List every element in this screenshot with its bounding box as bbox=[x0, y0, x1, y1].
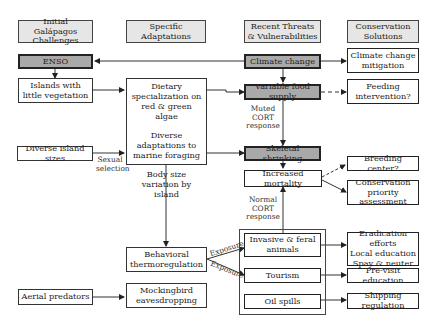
node-increased-mortality: Increased mortality bbox=[244, 170, 322, 187]
node-tourism: Tourism bbox=[244, 268, 321, 283]
node-text: Shipping regulation bbox=[350, 291, 416, 311]
header-text: Conservation Solutions bbox=[350, 22, 416, 42]
label-sexual-selection: Sexual selection bbox=[96, 156, 124, 173]
node-previsit-education: Pre-visit education bbox=[347, 268, 419, 283]
node-text: Feeding intervention? bbox=[350, 82, 416, 102]
node-dietary-specialization: Dietary specialization on red & green al… bbox=[129, 82, 204, 121]
header-text: Recent Threats & Vulnerabilities bbox=[247, 22, 318, 42]
node-islands-little-vegetation: Islands with little vegetation bbox=[18, 78, 93, 103]
header-specific-adaptations: Specific Adaptations bbox=[126, 20, 206, 43]
node-diverse-adaptations: Diverse adaptations to marine foraging bbox=[129, 131, 204, 161]
node-mockingbird-eavesdropping: Mockingbird eavesdropping bbox=[126, 283, 207, 308]
node-climate-change: Climate change bbox=[244, 54, 321, 69]
node-variable-food-supply: Variable food supply bbox=[244, 84, 321, 100]
edge-dietary-to-food bbox=[207, 90, 244, 92]
edge-mortality-to-breeding bbox=[322, 165, 345, 177]
node-skeletal-shrinking: Skeletal shrinking bbox=[244, 146, 321, 161]
node-text: Tourism bbox=[266, 271, 300, 281]
node-oil-spills: Oil spills bbox=[244, 294, 321, 309]
header-conservation-solutions: Conservation Solutions bbox=[347, 20, 419, 43]
node-text: Pre-visit education bbox=[350, 266, 416, 286]
node-body-size-variation: Body size variation by island bbox=[129, 170, 204, 200]
node-text: Variable food supply bbox=[248, 82, 317, 102]
node-breeding-center: Breeding center? bbox=[347, 156, 419, 171]
edge-mortality-to-priority bbox=[322, 180, 346, 192]
node-text: Increased mortality bbox=[247, 169, 319, 189]
node-eradication: Eradication efforts Local education Spay… bbox=[347, 232, 419, 266]
node-diverse-island-sizes: Diverse island sizes bbox=[17, 146, 93, 161]
header-text: Initial Galápagos Challenges bbox=[21, 17, 90, 47]
label-muted-cort: Muted CORT response bbox=[246, 105, 280, 131]
node-text: Skeletal shrinking bbox=[248, 144, 317, 164]
node-behavioral-thermoregulation: Behavioral thermoregulation bbox=[126, 247, 207, 272]
node-text: Climate change mitigation bbox=[350, 51, 416, 71]
node-conservation-priority: Conservation priority assessment bbox=[347, 180, 419, 205]
node-text: ENSO bbox=[43, 57, 68, 67]
node-shipping-regulation: Shipping regulation bbox=[347, 293, 419, 309]
header-recent-threats: Recent Threats & Vulnerabilities bbox=[244, 20, 321, 43]
node-text: Behavioral thermoregulation bbox=[129, 250, 204, 270]
node-text: Islands with little vegetation bbox=[21, 81, 90, 101]
node-text: Breeding center? bbox=[350, 154, 416, 174]
eradication-efforts: Eradication efforts bbox=[350, 229, 416, 249]
node-climate-mitigation: Climate change mitigation bbox=[347, 48, 419, 73]
node-text: Invasive & feral animals bbox=[247, 235, 318, 255]
header-initial-challenges: Initial Galápagos Challenges bbox=[18, 20, 93, 43]
node-text: Conservation priority assessment bbox=[350, 178, 416, 208]
node-enso: ENSO bbox=[18, 54, 93, 69]
node-invasive-feral: Invasive & feral animals bbox=[244, 233, 321, 257]
node-text: Oil spills bbox=[264, 297, 300, 307]
label-normal-cort: Normal CORT response bbox=[246, 196, 280, 222]
header-text: Specific Adaptations bbox=[129, 22, 203, 42]
node-text: Climate change bbox=[250, 57, 315, 67]
adaptations-group: Dietary specialization on red & green al… bbox=[126, 78, 207, 165]
node-text: Mockingbird eavesdropping bbox=[129, 286, 204, 306]
node-text: Diverse island sizes bbox=[20, 144, 90, 164]
node-text: Aerial predators bbox=[22, 292, 90, 302]
node-aerial-predators: Aerial predators bbox=[18, 289, 93, 305]
node-feeding-intervention: Feeding intervention? bbox=[347, 79, 419, 104]
